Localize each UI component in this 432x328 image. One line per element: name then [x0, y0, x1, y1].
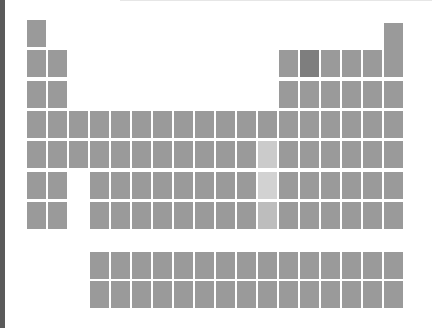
element-cell[interactable] — [321, 141, 340, 168]
f-block-cell[interactable] — [195, 281, 214, 308]
element-cell[interactable] — [363, 172, 382, 199]
element-cell[interactable] — [321, 81, 340, 108]
element-cell[interactable] — [300, 111, 319, 138]
element-cell[interactable] — [342, 111, 361, 138]
f-block-cell[interactable] — [363, 281, 382, 308]
element-cell[interactable] — [132, 111, 151, 138]
element-cell[interactable] — [90, 111, 109, 138]
element-cell[interactable] — [300, 202, 319, 229]
f-block-cell[interactable] — [174, 281, 193, 308]
element-cell[interactable] — [237, 141, 256, 168]
f-block-cell[interactable] — [384, 252, 403, 279]
f-block-cell[interactable] — [321, 281, 340, 308]
element-cell[interactable] — [27, 141, 46, 168]
element-cell[interactable] — [384, 141, 403, 168]
element-cell[interactable] — [48, 141, 67, 168]
element-cell[interactable] — [363, 50, 382, 77]
element-cell[interactable] — [111, 141, 130, 168]
f-block-cell[interactable] — [363, 252, 382, 279]
element-cell[interactable] — [132, 202, 151, 229]
element-cell[interactable] — [342, 202, 361, 229]
element-cell[interactable] — [90, 172, 109, 199]
f-block-cell[interactable] — [342, 281, 361, 308]
element-cell[interactable] — [384, 23, 403, 50]
f-block-cell[interactable] — [90, 252, 109, 279]
element-cell[interactable] — [27, 111, 46, 138]
element-cell[interactable] — [321, 50, 340, 77]
element-cell[interactable] — [153, 202, 172, 229]
f-block-cell[interactable] — [258, 281, 277, 308]
element-cell[interactable] — [279, 111, 298, 138]
element-cell[interactable] — [48, 172, 67, 199]
element-cell[interactable] — [237, 202, 256, 229]
element-cell[interactable] — [384, 202, 403, 229]
element-cell[interactable] — [27, 202, 46, 229]
element-cell[interactable] — [69, 141, 88, 168]
element-cell[interactable] — [342, 50, 361, 77]
f-block-cell[interactable] — [153, 252, 172, 279]
f-block-cell[interactable] — [111, 281, 130, 308]
f-block-cell[interactable] — [321, 252, 340, 279]
element-cell[interactable] — [363, 111, 382, 138]
element-cell[interactable] — [300, 141, 319, 168]
element-cell[interactable] — [300, 172, 319, 199]
f-block-cell[interactable] — [279, 281, 298, 308]
element-cell[interactable] — [258, 141, 277, 168]
element-cell[interactable] — [321, 111, 340, 138]
f-block-cell[interactable] — [90, 281, 109, 308]
element-cell[interactable] — [342, 172, 361, 199]
element-cell[interactable] — [174, 202, 193, 229]
element-cell[interactable] — [195, 172, 214, 199]
f-block-cell[interactable] — [237, 252, 256, 279]
element-cell[interactable] — [237, 172, 256, 199]
f-block-cell[interactable] — [300, 281, 319, 308]
element-cell[interactable] — [279, 141, 298, 168]
element-cell[interactable] — [363, 141, 382, 168]
element-cell[interactable] — [258, 202, 277, 229]
element-cell[interactable] — [48, 81, 67, 108]
f-block-cell[interactable] — [300, 252, 319, 279]
element-cell[interactable] — [195, 202, 214, 229]
element-cell[interactable] — [237, 111, 256, 138]
element-cell[interactable] — [132, 141, 151, 168]
element-cell[interactable] — [216, 202, 235, 229]
element-cell[interactable] — [300, 50, 319, 77]
f-block-cell[interactable] — [216, 281, 235, 308]
element-cell[interactable] — [195, 141, 214, 168]
element-cell[interactable] — [195, 111, 214, 138]
f-block-cell[interactable] — [111, 252, 130, 279]
element-cell[interactable] — [153, 141, 172, 168]
element-cell[interactable] — [384, 172, 403, 199]
element-cell[interactable] — [27, 20, 46, 47]
f-block-cell[interactable] — [258, 252, 277, 279]
element-cell[interactable] — [174, 172, 193, 199]
element-cell[interactable] — [90, 141, 109, 168]
element-cell[interactable] — [153, 111, 172, 138]
f-block-cell[interactable] — [174, 252, 193, 279]
f-block-cell[interactable] — [342, 252, 361, 279]
element-cell[interactable] — [321, 202, 340, 229]
element-cell[interactable] — [216, 172, 235, 199]
element-cell[interactable] — [363, 202, 382, 229]
element-cell[interactable] — [258, 111, 277, 138]
element-cell[interactable] — [132, 172, 151, 199]
element-cell[interactable] — [342, 81, 361, 108]
element-cell[interactable] — [48, 111, 67, 138]
element-cell[interactable] — [279, 81, 298, 108]
element-cell[interactable] — [48, 50, 67, 77]
f-block-cell[interactable] — [132, 281, 151, 308]
element-cell[interactable] — [279, 202, 298, 229]
element-cell[interactable] — [111, 172, 130, 199]
element-cell[interactable] — [300, 81, 319, 108]
element-cell[interactable] — [48, 202, 67, 229]
element-cell[interactable] — [279, 172, 298, 199]
f-block-cell[interactable] — [237, 281, 256, 308]
element-cell[interactable] — [174, 111, 193, 138]
element-cell[interactable] — [27, 172, 46, 199]
f-block-cell[interactable] — [216, 252, 235, 279]
element-cell[interactable] — [27, 50, 46, 77]
element-cell[interactable] — [342, 141, 361, 168]
f-block-cell[interactable] — [279, 252, 298, 279]
element-cell[interactable] — [27, 81, 46, 108]
element-cell[interactable] — [216, 141, 235, 168]
